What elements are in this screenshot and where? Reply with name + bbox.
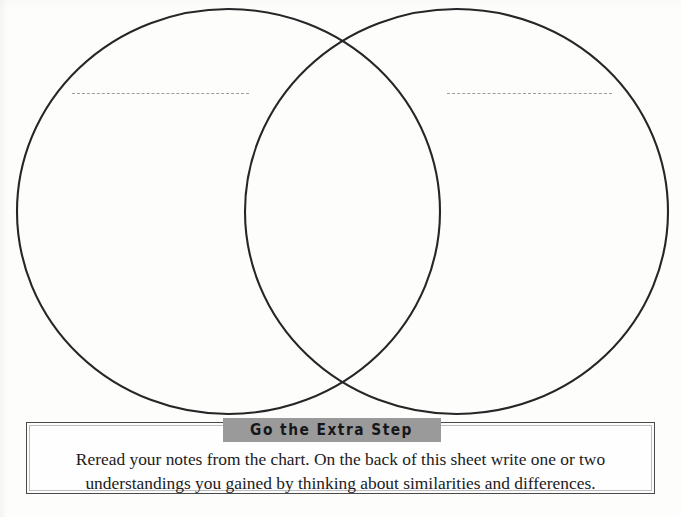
right-topic-circle[interactable] xyxy=(245,9,668,414)
panel-title-banner: Go the Extra Step xyxy=(223,418,441,442)
left-topic-circle[interactable] xyxy=(17,9,440,414)
venn-diagram xyxy=(0,0,681,420)
panel-instruction-text: Reread your notes from the chart. On the… xyxy=(37,447,644,495)
instruction-line-2: understandings you gained by thinking ab… xyxy=(37,471,644,495)
instruction-panel: Go the Extra Step Reread your notes from… xyxy=(26,422,655,494)
left-circle-label-line[interactable] xyxy=(72,93,249,94)
panel-title: Go the Extra Step xyxy=(251,421,414,439)
worksheet-page: Go the Extra Step Reread your notes from… xyxy=(0,0,681,517)
instruction-line-1: Reread your notes from the chart. On the… xyxy=(37,447,644,471)
venn-circles-svg xyxy=(0,0,681,420)
right-circle-label-line[interactable] xyxy=(447,93,612,94)
